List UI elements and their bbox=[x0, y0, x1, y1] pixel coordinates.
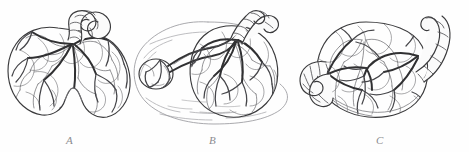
figure-panel-b bbox=[130, 0, 310, 152]
chorionic-vessels-a bbox=[28, 32, 108, 90]
chorionic-vessels-c bbox=[328, 40, 418, 90]
panel-label-a: A bbox=[66, 134, 73, 146]
disc-texture-c bbox=[318, 24, 429, 114]
interlobar-notch-a bbox=[65, 88, 82, 101]
panel-label-b: B bbox=[209, 134, 216, 146]
umbilical-cord-c-right bbox=[416, 16, 450, 82]
figure-panel-c bbox=[292, 0, 469, 152]
placenta-illustration-a bbox=[0, 0, 146, 152]
chorionic-branches-b bbox=[190, 48, 273, 106]
placenta-plate: A B C bbox=[0, 0, 469, 152]
placenta-illustration-c bbox=[292, 0, 469, 152]
umbilical-cord-b bbox=[230, 11, 278, 44]
placental-disc-b bbox=[189, 26, 278, 117]
accessory-lobe-b bbox=[139, 59, 173, 90]
placental-disc-a bbox=[8, 27, 130, 117]
panel-label-c: C bbox=[376, 134, 384, 146]
figure-panel-a bbox=[0, 0, 146, 152]
placenta-illustration-b bbox=[130, 0, 310, 152]
disc-texture-a bbox=[12, 32, 127, 114]
fine-vessels-b bbox=[197, 43, 275, 112]
placental-disc-c bbox=[317, 22, 429, 117]
umbilical-cord-c-left bbox=[300, 61, 333, 106]
